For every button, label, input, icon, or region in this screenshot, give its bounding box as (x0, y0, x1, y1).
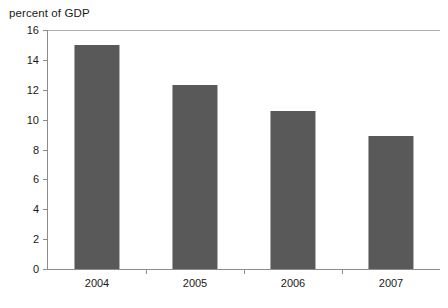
x-axis-tick-mark (342, 269, 343, 274)
y-axis-tick-mark (43, 150, 48, 151)
y-axis-tick-label: 0 (33, 264, 39, 275)
y-axis-tick-mark (43, 30, 48, 31)
x-axis-tick-mark (146, 269, 147, 274)
y-axis-tick-mark (43, 120, 48, 121)
x-axis-tick-label: 2006 (281, 278, 305, 289)
bar (368, 136, 413, 269)
y-axis-tick-mark (43, 239, 48, 240)
bar (172, 85, 217, 269)
y-axis-tick-label: 10 (27, 114, 39, 125)
y-axis-tick-mark (43, 269, 48, 270)
y-axis-tick-mark (43, 209, 48, 210)
y-axis-tick-label: 12 (27, 84, 39, 95)
y-axis-tick-label: 14 (27, 54, 39, 65)
y-axis-tick-label: 4 (33, 204, 39, 215)
x-axis-tick-label: 2005 (183, 278, 207, 289)
y-axis-tick-mark (43, 179, 48, 180)
x-axis-tick-label: 2007 (379, 278, 403, 289)
bar-chart: percent of GDP 0246810121416 20042005200… (0, 0, 448, 308)
bar (74, 45, 119, 269)
y-axis-tick-mark (43, 90, 48, 91)
chart-title: percent of GDP (9, 6, 90, 20)
y-axis-tick-label: 8 (33, 144, 39, 155)
bar (270, 111, 315, 269)
y-axis-tick-label: 2 (33, 234, 39, 245)
plot-area: 0246810121416 2004200520062007 (47, 30, 440, 270)
y-axis-tick-label: 16 (27, 25, 39, 36)
y-axis-tick-label: 6 (33, 174, 39, 185)
top-frame-rule (48, 30, 440, 31)
y-axis-tick-mark (43, 60, 48, 61)
x-axis-tick-mark (244, 269, 245, 274)
x-axis-tick-label: 2004 (85, 278, 109, 289)
